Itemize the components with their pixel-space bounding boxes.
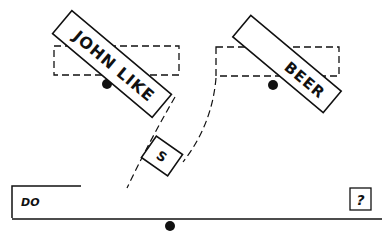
- john-like-label: JOHN LIKE: [69, 26, 159, 106]
- bottom-pivot-dot: [165, 221, 175, 231]
- sentence-balance-diagram: JOHN LIKE BEER S DO ?: [0, 0, 384, 240]
- do-label: DO: [21, 196, 39, 209]
- beer-tile: BEER: [233, 15, 341, 112]
- s-tile: S: [141, 136, 182, 176]
- john-like-tile: JOHN LIKE: [53, 11, 172, 118]
- question-label: ?: [356, 192, 364, 208]
- right-dashed-arc: [183, 78, 216, 162]
- right-pivot-dot: [268, 80, 278, 90]
